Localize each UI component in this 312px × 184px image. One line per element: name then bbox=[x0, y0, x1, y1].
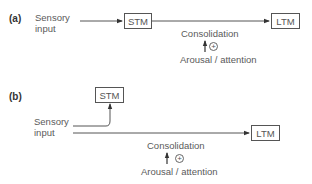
panel-b-ltm-label: LTM bbox=[256, 128, 274, 139]
panel-b-input-line1: Sensory bbox=[34, 116, 69, 127]
panel-b-arousal-label: Arousal / attention bbox=[141, 166, 218, 177]
arrow-input-to-stm-b bbox=[73, 104, 110, 126]
panel-b-input-line2: input bbox=[34, 127, 55, 138]
panel-b-stm-label: STM bbox=[99, 90, 119, 101]
panel-a-input-line2: input bbox=[35, 23, 56, 34]
panel-a-plus-icon: + bbox=[209, 42, 218, 51]
panel-a-ltm-label: LTM bbox=[276, 16, 294, 27]
panel-a-input-line1: Sensory bbox=[35, 12, 70, 23]
panel-b-plus-icon: + bbox=[175, 154, 184, 163]
panel-a-arousal-label: Arousal / attention bbox=[180, 54, 257, 65]
panel-b-ltm-box: LTM bbox=[251, 125, 280, 141]
panel-a-stm-box: STM bbox=[124, 13, 152, 29]
panel-b-label: (b) bbox=[9, 91, 22, 102]
panel-a-consolidation-label: Consolidation bbox=[181, 28, 239, 39]
panel-a-label: (a) bbox=[9, 13, 21, 24]
panel-a-ltm-box: LTM bbox=[271, 13, 300, 29]
panel-b-stm-box: STM bbox=[95, 87, 124, 103]
panel-b-consolidation-label: Consolidation bbox=[147, 140, 205, 151]
panel-a-stm-label: STM bbox=[128, 16, 148, 27]
